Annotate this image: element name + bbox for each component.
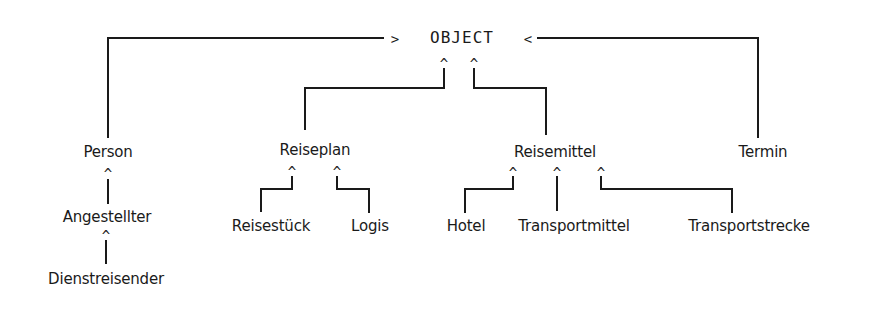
caret-up-icon: ^ — [102, 228, 110, 244]
caret-up-icon: ^ — [553, 165, 561, 181]
edge-reiseplan-object — [305, 68, 444, 130]
caret-up-icon: ^ — [509, 165, 517, 181]
arrow-right-icon: > — [391, 31, 399, 47]
node-transportmittel: Transportmittel — [518, 217, 629, 235]
edge-logis-reiseplan — [337, 176, 369, 213]
caret-up-icon: ^ — [597, 165, 605, 181]
node-transportstrecke: Transportstrecke — [688, 217, 810, 235]
edge-termin-object — [537, 38, 758, 138]
caret-up-icon: ^ — [470, 56, 478, 72]
node-object: OBJECT — [430, 29, 494, 47]
edge-reisestueck-reiseplan — [261, 176, 292, 212]
node-hotel: Hotel — [447, 217, 486, 235]
caret-up-icon: ^ — [333, 164, 341, 180]
edge-transportstrecke-reisemittel — [601, 176, 732, 213]
node-logis: Logis — [351, 217, 389, 235]
node-reisemittel: Reisemittel — [514, 143, 596, 161]
edge-hotel-reisemittel — [465, 176, 513, 213]
node-termin: Termin — [739, 143, 788, 161]
caret-up-icon: ^ — [104, 166, 112, 182]
node-angestellter: Angestellter — [63, 208, 152, 226]
caret-up-icon: ^ — [288, 164, 296, 180]
node-dienstreisender: Dienstreisender — [48, 270, 164, 288]
arrow-left-icon: < — [524, 31, 532, 47]
node-reisestueck: Reisestück — [232, 217, 310, 235]
caret-up-icon: ^ — [440, 56, 448, 72]
edge-reisemittel-object — [474, 68, 546, 135]
node-person: Person — [83, 143, 132, 161]
node-reiseplan: Reiseplan — [280, 141, 351, 159]
